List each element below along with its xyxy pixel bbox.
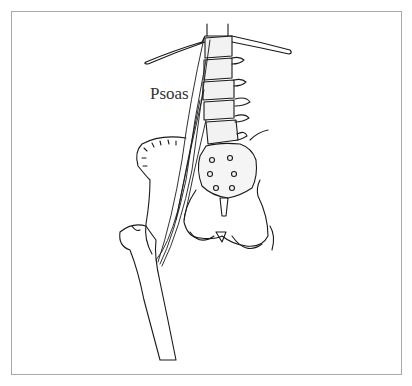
psoas-label: Psoas xyxy=(150,84,189,104)
anatomy-illustration xyxy=(0,0,412,386)
